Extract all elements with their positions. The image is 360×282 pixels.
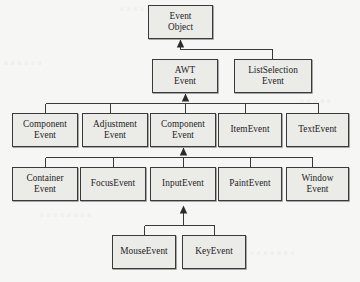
diagram-canvas: a a a a a a a a a a aa a a a a aa a a a … — [0, 0, 360, 282]
arrowhead-to-input-event — [180, 206, 187, 214]
class-node-label-line2: Event — [307, 184, 329, 195]
class-node-component-event-b[interactable]: ComponentEvent — [150, 113, 216, 147]
class-node-label-line1: InputEvent — [162, 178, 204, 189]
class-node-label-line1: TextEvent — [298, 124, 337, 135]
class-node-label-line2: Event — [262, 76, 284, 87]
class-node-label-line1: Adjustment — [93, 119, 137, 130]
class-node-label-line1: ListSelection — [248, 65, 298, 76]
class-node-text-event[interactable]: TextEvent — [286, 113, 349, 147]
class-node-input-event[interactable]: InputEvent — [150, 167, 216, 201]
class-node-label-line1: KeyEvent — [195, 246, 233, 257]
class-node-container-event[interactable]: ContainerEvent — [12, 167, 78, 201]
class-node-event-object[interactable]: EventObject — [148, 5, 213, 39]
class-node-label-line1: FocusEvent — [91, 178, 135, 189]
class-node-paint-event[interactable]: PaintEvent — [218, 167, 282, 201]
class-node-label-line1: Window — [302, 173, 334, 184]
arrowhead-to-component-event — [180, 148, 187, 156]
class-node-label-line2: Event — [34, 184, 56, 195]
class-node-adjustment-event[interactable]: AdjustmentEvent — [82, 113, 148, 147]
class-node-label-line2: Event — [104, 130, 126, 141]
arrowhead-to-awt-event — [182, 94, 189, 102]
class-node-label-line1: Event — [170, 11, 192, 22]
arrowhead-to-event-object — [177, 40, 184, 48]
class-node-item-event[interactable]: ItemEvent — [218, 113, 282, 147]
class-node-label-line1: Component — [161, 119, 205, 130]
class-node-label-line2: Event — [174, 76, 196, 87]
class-node-label-line2: Event — [34, 130, 56, 141]
class-node-label-line1: Container — [26, 173, 63, 184]
class-node-window-event[interactable]: WindowEvent — [286, 167, 349, 201]
class-node-label-line1: PaintEvent — [229, 178, 270, 189]
class-node-label-line2: Object — [168, 22, 193, 33]
class-node-listselection-event[interactable]: ListSelectionEvent — [234, 59, 312, 93]
class-node-label-line1: ItemEvent — [230, 124, 269, 135]
class-node-mouse-event[interactable]: MouseEvent — [112, 235, 176, 269]
class-node-awt-event[interactable]: AWTEvent — [152, 59, 218, 93]
class-node-key-event[interactable]: KeyEvent — [182, 235, 246, 269]
class-node-label-line1: MouseEvent — [120, 246, 168, 257]
class-node-component-event-a[interactable]: ComponentEvent — [12, 113, 78, 147]
class-node-label-line1: Component — [23, 119, 67, 130]
class-node-focus-event[interactable]: FocusEvent — [80, 167, 146, 201]
class-node-label-line2: Event — [172, 130, 194, 141]
class-node-label-line1: AWT — [175, 65, 196, 76]
